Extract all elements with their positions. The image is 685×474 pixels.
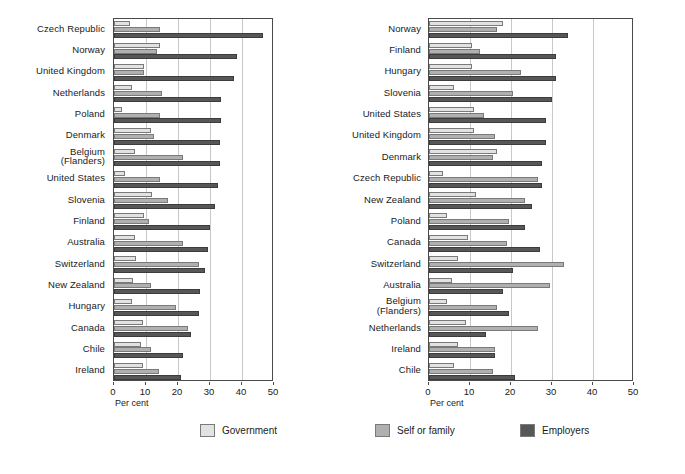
bar-right-7-1 — [429, 177, 538, 182]
bar-left-4-0 — [114, 107, 122, 112]
bar-left-3-0 — [114, 85, 132, 90]
bar-right-16-1 — [429, 369, 493, 374]
category-labels-right: NorwayFinlandHungarySloveniaUnited State… — [343, 18, 425, 381]
bar-right-13-0 — [429, 299, 447, 304]
x-axis-title-left: Per cent — [115, 398, 149, 408]
x-tick — [510, 382, 511, 385]
category-label-left-8: Slovenia — [68, 195, 105, 205]
bar-left-14-0 — [114, 320, 143, 325]
x-tick-label: 0 — [413, 386, 443, 397]
bar-right-3-1 — [429, 91, 513, 96]
legend-swatch-0 — [200, 424, 215, 437]
bar-right-12-0 — [429, 278, 452, 283]
bar-right-5-2 — [429, 140, 546, 145]
category-label-right-15: Ireland — [391, 344, 421, 354]
x-tick-label: 10 — [454, 386, 484, 397]
category-label-left-2: United Kingdom — [36, 66, 105, 76]
bar-right-13-1 — [429, 305, 497, 310]
x-tick-label: 10 — [130, 386, 160, 397]
bar-right-15-1 — [429, 347, 495, 352]
bar-left-0-0 — [114, 21, 130, 26]
bar-left-15-0 — [114, 342, 141, 347]
x-tick-label: 40 — [577, 386, 607, 397]
category-label-left-14: Canada — [71, 323, 105, 333]
category-label-left-4: Poland — [75, 109, 105, 119]
bar-right-7-2 — [429, 183, 542, 188]
bar-right-0-0 — [429, 21, 503, 26]
bar-left-15-2 — [114, 353, 183, 358]
bar-right-1-2 — [429, 54, 556, 59]
bar-left-5-1 — [114, 134, 154, 139]
x-tick — [209, 382, 210, 385]
bar-left-9-1 — [114, 219, 149, 224]
bar-right-8-1 — [429, 198, 525, 203]
bar-left-16-0 — [114, 363, 143, 368]
bar-left-10-0 — [114, 235, 135, 240]
category-label-right-12: Australia — [383, 280, 421, 290]
category-label-right-10: Canada — [387, 237, 421, 247]
bar-right-11-1 — [429, 262, 564, 267]
bar-right-1-1 — [429, 49, 480, 54]
bar-right-14-1 — [429, 326, 538, 331]
category-label-left-12: New Zealand — [48, 280, 105, 290]
bar-right-4-2 — [429, 118, 546, 123]
category-label-left-6: Belgium(Flanders) — [61, 147, 105, 166]
bar-right-4-1 — [429, 113, 484, 118]
gridline — [593, 19, 594, 380]
bar-left-1-1 — [114, 49, 157, 54]
chart-legend: GovernmentSelf or familyEmployers — [0, 420, 685, 452]
bar-right-10-0 — [429, 235, 468, 240]
bar-left-3-2 — [114, 97, 221, 102]
bar-right-6-1 — [429, 155, 493, 160]
chart-panel-left: Czech RepublicNorwayUnited KingdomNether… — [0, 0, 342, 410]
category-label-left-0: Czech Republic — [37, 24, 105, 34]
bar-right-0-2 — [429, 33, 568, 38]
x-tick-label: 30 — [536, 386, 566, 397]
category-label-left-5: Denmark — [66, 130, 105, 140]
bar-right-11-0 — [429, 256, 458, 261]
x-tick-label: 50 — [618, 386, 648, 397]
category-label-left-15: Chile — [83, 344, 105, 354]
bar-left-3-1 — [114, 91, 162, 96]
plot-area-left — [113, 18, 273, 381]
bar-right-15-2 — [429, 353, 495, 358]
x-tick — [113, 382, 114, 385]
bar-left-2-0 — [114, 64, 144, 69]
bar-right-0-1 — [429, 27, 497, 32]
bar-right-5-1 — [429, 134, 495, 139]
bar-right-16-2 — [429, 375, 515, 380]
bar-right-3-0 — [429, 85, 454, 90]
legend-label-0: Government — [222, 424, 277, 437]
category-label-left-7: United States — [47, 173, 105, 183]
x-tick — [551, 382, 552, 385]
bar-left-9-2 — [114, 225, 210, 230]
bar-right-1-0 — [429, 43, 472, 48]
bar-left-2-1 — [114, 70, 144, 75]
bar-left-0-2 — [114, 33, 263, 38]
category-label-right-16: Chile — [399, 365, 421, 375]
bar-right-11-2 — [429, 268, 513, 273]
bar-right-10-1 — [429, 241, 507, 246]
category-label-right-0: Norway — [388, 24, 421, 34]
x-tick — [469, 382, 470, 385]
bar-left-9-0 — [114, 213, 144, 218]
bar-right-9-0 — [429, 213, 447, 218]
category-label-left-13: Hungary — [68, 301, 105, 311]
bar-left-1-0 — [114, 43, 160, 48]
category-label-left-9: Finland — [73, 216, 105, 226]
bar-left-10-2 — [114, 247, 208, 252]
bar-right-10-2 — [429, 247, 540, 252]
bar-left-8-1 — [114, 198, 168, 203]
bar-right-2-0 — [429, 64, 472, 69]
bar-right-8-2 — [429, 204, 532, 209]
category-label-left-16: Ireland — [75, 365, 105, 375]
bar-right-9-2 — [429, 225, 525, 230]
category-label-right-6: Denmark — [382, 152, 421, 162]
x-tick-label: 40 — [226, 386, 256, 397]
category-label-right-3: Slovenia — [384, 88, 421, 98]
x-tick — [241, 382, 242, 385]
x-tick — [177, 382, 178, 385]
x-tick — [273, 382, 274, 385]
category-label-right-13: Belgium(Flanders) — [377, 296, 421, 315]
bar-right-9-1 — [429, 219, 509, 224]
